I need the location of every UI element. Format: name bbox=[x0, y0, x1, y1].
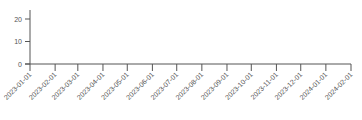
y-axis: 01020 bbox=[14, 10, 30, 68]
y-tick-label: 20 bbox=[14, 16, 22, 23]
y-tick-label: 0 bbox=[18, 61, 22, 68]
line-chart: 01020 2023-01-012023-02-012023-03-012023… bbox=[0, 0, 362, 120]
y-tick-label: 10 bbox=[14, 38, 22, 45]
x-axis: 2023-01-012023-02-012023-03-012023-04-01… bbox=[2, 64, 353, 101]
